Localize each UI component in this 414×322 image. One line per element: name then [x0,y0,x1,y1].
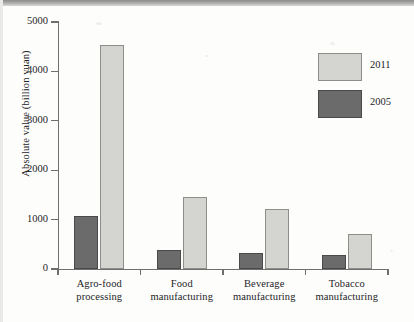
legend-label-2005: 2005 [370,96,391,107]
legend-label-2011: 2011 [370,59,391,70]
y-axis-tick-label: 0 [0,262,48,273]
y-axis-tick-label: 5000 [0,15,48,26]
category-label-line: Agro-food [58,277,141,290]
category-label-line: Food [141,277,224,290]
scan-speckle [150,300,154,302]
x-axis-tick [387,269,388,275]
x-axis-tick [57,269,58,275]
chart-legend: 2011 2005 [318,53,408,127]
bar-2005 [322,255,346,269]
x-axis-tick [222,269,223,275]
y-axis-tick [51,71,58,72]
y-axis-tick-label: 3000 [0,114,48,125]
legend-item-2005: 2005 [318,90,408,127]
y-axis-tick-label: 1000 [0,213,48,224]
scan-speckle [96,22,102,25]
y-axis-tick [51,21,58,22]
category-label-line: manufacturing [306,290,389,303]
x-axis-category-label: Foodmanufacturing [141,277,224,303]
bar-2011 [265,209,289,269]
scan-speckle [205,55,209,57]
scan-speckle [330,42,335,45]
scan-speckle [390,250,393,252]
category-label-line: processing [58,290,141,303]
category-label-line: Beverage [223,277,306,290]
bar-2005 [157,250,181,269]
bar-2005 [239,253,263,269]
y-axis-tick [51,120,58,121]
scan-artifact-left [0,0,3,322]
bar-2011 [348,234,372,269]
y-axis-tick-label: 4000 [0,64,48,75]
bar-2005 [74,216,98,269]
y-axis-tick-label: 2000 [0,163,48,174]
category-label-line: manufacturing [223,290,306,303]
bar-2011 [100,45,124,269]
y-axis-tick [51,219,58,220]
legend-item-2011: 2011 [318,53,408,90]
bar-chart-figure: Absolute value (billion yuan) 0100020003… [0,0,414,322]
x-axis-tick [140,269,141,275]
x-axis-tick [305,269,306,275]
scan-speckle [260,300,263,302]
bar-2011 [183,197,207,269]
legend-swatch-icon-2005 [318,90,362,118]
legend-swatch-icon-2011 [318,53,362,81]
x-axis-category-label: Agro-foodprocessing [58,277,141,303]
scan-artifact-top [0,0,414,6]
x-axis-category-label: Tobaccomanufacturing [306,277,389,303]
x-axis-category-label: Beveragemanufacturing [223,277,306,303]
category-label-line: Tobacco [306,277,389,290]
y-axis-tick [51,170,58,171]
